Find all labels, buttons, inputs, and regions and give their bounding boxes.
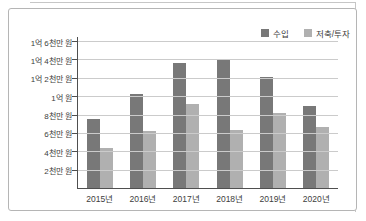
gridline — [78, 151, 338, 152]
page: 수입저축/투자 2015년2016년2017년2018년2019년2020년 1… — [0, 0, 366, 221]
y-tick-label: 8천만 원 — [6, 110, 72, 121]
y-axis-tick — [72, 41, 77, 42]
x-tick-label: 2018년 — [208, 192, 251, 204]
square-swatch-icon — [261, 29, 269, 37]
y-axis-tick — [72, 59, 77, 60]
gridline — [78, 41, 338, 42]
bar-저축/투자-2018년 — [230, 130, 243, 188]
legend-item-저축/투자: 저축/투자 — [304, 27, 350, 39]
gridline — [78, 115, 338, 116]
y-axis-tick — [72, 115, 77, 116]
bar-저축/투자-2017년 — [186, 104, 199, 188]
legend-label: 저축/투자 — [316, 27, 350, 39]
y-tick-label: 1억 6천만 원 — [6, 37, 72, 48]
bar-저축/투자-2020년 — [316, 127, 329, 188]
bar-저축/투자-2016년 — [143, 131, 156, 188]
gridline — [78, 170, 338, 171]
chart-card: 수입저축/투자 2015년2016년2017년2018년2019년2020년 1… — [8, 8, 357, 211]
y-tick-label: 1억 4천만 원 — [6, 55, 72, 66]
gridline — [78, 78, 338, 79]
x-axis-labels: 2015년2016년2017년2018년2019년2020년 — [78, 188, 338, 204]
x-tick-label: 2020년 — [295, 192, 338, 204]
legend-label: 수입 — [273, 27, 289, 39]
gridline — [78, 96, 338, 97]
x-tick-label: 2017년 — [165, 192, 208, 204]
bar-수입-2015년 — [87, 119, 100, 188]
y-axis-tick — [72, 170, 77, 171]
bar-수입-2016년 — [130, 94, 143, 188]
y-axis-tick — [72, 96, 77, 97]
y-tick-label: 6천만 원 — [6, 128, 72, 139]
y-tick-label: 1억 2천만 원 — [6, 73, 72, 84]
y-tick-label: 2천만 원 — [6, 165, 72, 176]
plot-area: 2015년2016년2017년2018년2019년2020년 1억 6천만 원1… — [78, 41, 338, 188]
bar-수입-2020년 — [303, 106, 316, 188]
gridline — [78, 59, 338, 60]
bar-저축/투자-2015년 — [100, 148, 113, 188]
gridline — [78, 133, 338, 134]
chart-legend: 수입저축/투자 — [261, 27, 350, 39]
x-tick-label: 2019년 — [251, 192, 294, 204]
y-axis-tick — [72, 133, 77, 134]
y-tick-label: 1억 원 — [6, 92, 72, 103]
y-tick-label: 4천만 원 — [6, 147, 72, 158]
y-axis-tick — [72, 151, 77, 152]
legend-item-수입: 수입 — [261, 27, 289, 39]
square-swatch-icon — [304, 29, 312, 37]
y-axis-tick — [72, 78, 77, 79]
x-tick-label: 2015년 — [78, 192, 121, 204]
x-tick-label: 2016년 — [121, 192, 164, 204]
